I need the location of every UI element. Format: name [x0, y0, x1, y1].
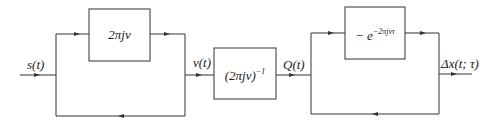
signal-label-v: v(t) [193, 56, 211, 69]
arrow-icon [118, 114, 124, 118]
integrator-expression: (2πjν) [225, 68, 256, 83]
delay-expression: − e [355, 28, 373, 43]
arrow-icon [451, 72, 457, 76]
arrow-icon [289, 73, 295, 77]
arrow-icon [164, 32, 170, 36]
integrator-label: (2πjν)−1 [214, 68, 276, 82]
arrow-icon [420, 31, 426, 35]
integrator-exponent: −1 [256, 67, 265, 76]
arrow-icon [328, 31, 334, 35]
arrow-icon [34, 73, 40, 77]
stage2-right-and-bypass-path [311, 33, 439, 114]
stage2-upper-left-path [311, 33, 345, 114]
delay-exponent: −2πjντ [373, 27, 395, 36]
stage1-upper-left-path [56, 34, 89, 116]
arrow-icon [196, 73, 202, 77]
block-diagram: s(t) v(t) Q(t) Δx(t; τ) 2πjν (2πjν)−1 − … [0, 0, 492, 123]
differentiator-expression: 2πjν [108, 27, 130, 42]
arrow-icon [74, 32, 80, 36]
arrow-icon [372, 112, 378, 116]
diagram-lines [0, 0, 492, 123]
differentiator-label: 2πjν [89, 28, 150, 41]
signal-label-input: s(t) [27, 58, 44, 71]
signal-label-output: Δx(t; τ) [441, 57, 479, 70]
signal-label-q: Q(t) [283, 58, 305, 71]
delay-label: − e−2πjντ [345, 28, 405, 42]
stage1-right-and-bypass-path [56, 34, 185, 116]
